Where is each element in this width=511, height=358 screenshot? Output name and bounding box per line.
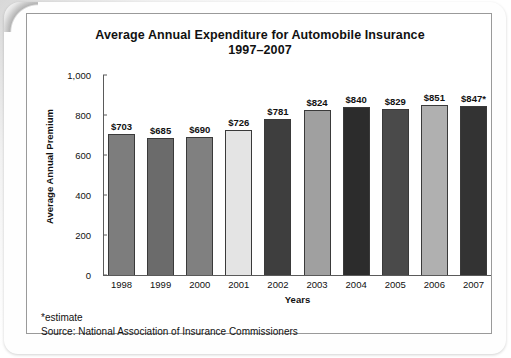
plot-area: Average Annual Premium 1,000800600400200… <box>27 58 493 308</box>
bar <box>343 107 370 275</box>
y-axis-ticks: 1,0008006004002000 <box>39 75 97 275</box>
bar-value-label: $824 <box>306 97 327 108</box>
x-axis-tick-label: 2006 <box>421 279 448 290</box>
bar-value-label: $726 <box>228 117 249 128</box>
bar-column: $781 <box>264 75 291 275</box>
bar <box>304 110 331 275</box>
bar-column: $726 <box>225 75 252 275</box>
chart-frame: Average Annual Expenditure for Automobil… <box>26 13 492 334</box>
bar-value-label: $685 <box>150 125 171 136</box>
y-axis-tick-label: 600 <box>75 150 91 161</box>
x-axis-tick-label: 2004 <box>343 279 370 290</box>
bar <box>147 138 174 275</box>
source-note: Source: National Association of Insuranc… <box>41 325 298 339</box>
bar-column: $703 <box>108 75 135 275</box>
bar-value-label: $829 <box>385 96 406 107</box>
estimate-note: *estimate <box>41 311 298 325</box>
bar-column: $847* <box>460 75 487 275</box>
bar-column: $690 <box>186 75 213 275</box>
bar-value-label: $851 <box>424 92 445 103</box>
chart-title: Average Annual Expenditure for Automobil… <box>27 28 493 58</box>
y-axis-tick-label: 1,000 <box>67 70 91 81</box>
bar-column: $851 <box>421 75 448 275</box>
bar <box>108 134 135 275</box>
bar-value-label: $847* <box>461 93 486 104</box>
bar-value-label: $781 <box>267 106 288 117</box>
chart-title-line2: 1997–2007 <box>27 43 493 58</box>
x-axis-tick-label: 2000 <box>186 279 213 290</box>
chart-footnotes: *estimate Source: National Association o… <box>41 311 298 339</box>
x-axis-ticks: 1998199920002001200220032004200520062007 <box>104 279 491 290</box>
page-background: Average Annual Expenditure for Automobil… <box>0 0 511 358</box>
page-card: Average Annual Expenditure for Automobil… <box>4 2 506 354</box>
x-axis-tick-label: 1998 <box>108 279 135 290</box>
bar <box>186 137 213 275</box>
bar <box>225 130 252 275</box>
bar-column: $840 <box>343 75 370 275</box>
x-axis-tick-label: 2002 <box>264 279 291 290</box>
x-axis-tick-label: 2001 <box>225 279 252 290</box>
y-axis-tick-label: 0 <box>86 270 91 281</box>
x-axis-tick-label: 2003 <box>304 279 331 290</box>
x-axis-tick-label: 1999 <box>147 279 174 290</box>
bar <box>382 109 409 275</box>
bar-series: $703$685$690$726$781$824$840$829$851$847… <box>104 75 491 275</box>
bar-column: $685 <box>147 75 174 275</box>
y-axis-tick-label: 400 <box>75 190 91 201</box>
bar-column: $829 <box>382 75 409 275</box>
x-axis-line <box>103 275 491 276</box>
x-axis-tick-label: 2007 <box>460 279 487 290</box>
chart-title-line1: Average Annual Expenditure for Automobil… <box>27 28 493 43</box>
bar-value-label: $840 <box>346 94 367 105</box>
bar <box>264 119 291 275</box>
y-axis-tick-label: 200 <box>75 230 91 241</box>
x-axis-tick-label: 2005 <box>382 279 409 290</box>
bar-column: $824 <box>304 75 331 275</box>
bar <box>460 106 487 275</box>
y-axis-tick-label: 800 <box>75 110 91 121</box>
x-axis-label: Years <box>104 294 491 305</box>
bar-value-label: $703 <box>111 121 132 132</box>
bar-value-label: $690 <box>189 124 210 135</box>
bar <box>421 105 448 275</box>
